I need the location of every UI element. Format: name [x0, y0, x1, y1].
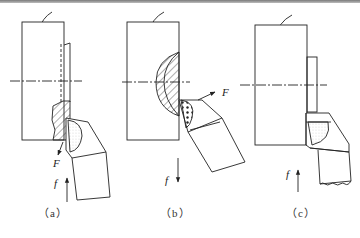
force-arrow-icon — [198, 92, 215, 100]
panel-label-b: （b） — [160, 204, 191, 220]
panel-a — [10, 12, 110, 202]
panel-c — [240, 15, 351, 192]
panel-label-c: （c） — [286, 204, 316, 220]
cutting-diagram: F f F f f — [0, 0, 360, 238]
force-label-a: F — [52, 157, 60, 169]
force-label-b: F — [221, 86, 229, 98]
feed-label-b: f — [165, 174, 170, 186]
panel-label-a: （a） — [38, 204, 68, 220]
force-arrow-icon — [58, 142, 63, 155]
feed-label-c: f — [286, 168, 291, 180]
feed-label-a: f — [54, 177, 59, 189]
